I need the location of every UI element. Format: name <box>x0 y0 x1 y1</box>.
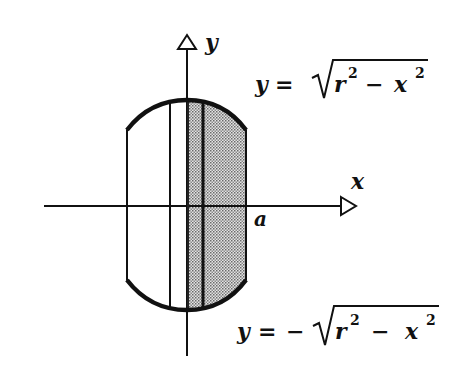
x-axis-label: x <box>350 168 365 194</box>
diagram-canvas: y x a y = r 2 − x 2 y = − r 2 − x 2 <box>0 0 462 376</box>
upper-equation: y = r 2 − x 2 <box>254 60 428 98</box>
upper-eq-equals: = <box>275 71 293 97</box>
lower-eq-equals: = <box>258 318 276 344</box>
point-label-a: a <box>254 207 267 231</box>
lower-eq-r-exp: 2 <box>350 312 360 328</box>
lower-eq-x: x <box>404 318 419 344</box>
lower-eq-lhs: y <box>236 318 252 344</box>
lower-eq-minus: − <box>371 318 389 344</box>
y-axis-label: y <box>204 29 220 55</box>
upper-eq-r: r <box>334 71 347 97</box>
x-axis-arrow-icon <box>341 197 356 215</box>
upper-eq-x: x <box>393 71 408 97</box>
lower-eq-r: r <box>335 318 348 344</box>
lower-equation: y = − r 2 − x 2 <box>236 306 439 345</box>
upper-eq-r-exp: 2 <box>348 65 358 81</box>
upper-eq-x-exp: 2 <box>415 65 425 81</box>
lower-eq-sign: − <box>286 318 304 344</box>
upper-eq-minus: − <box>365 71 383 97</box>
y-axis-arrow-icon <box>178 35 196 49</box>
lower-eq-x-exp: 2 <box>426 312 436 328</box>
upper-eq-lhs: y <box>254 71 270 97</box>
